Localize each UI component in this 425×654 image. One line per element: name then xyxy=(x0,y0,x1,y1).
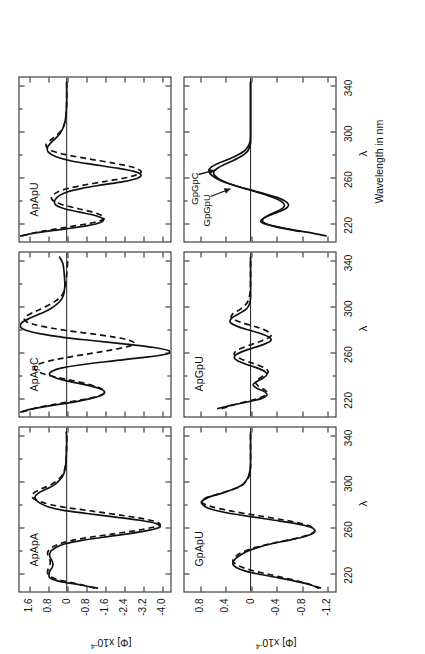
curves-ApGpU xyxy=(184,252,335,416)
xtick-GpGpCU-220 xyxy=(330,223,335,224)
ytick-GpApU--0.4 xyxy=(276,586,277,591)
xticklabel-GpApU-340: 340 xyxy=(342,429,353,446)
ytick-GpApU-0.4 xyxy=(225,586,226,591)
ytick-right-ApApC-0 xyxy=(67,252,68,257)
xtick-top-ApGpU-300 xyxy=(184,306,189,307)
plot-area-ApApC xyxy=(19,252,170,416)
xtick-minor-top-ApGpU-240 xyxy=(184,375,187,376)
xtick-ApApU-220 xyxy=(165,223,170,224)
plot-area-ApGpU xyxy=(184,252,335,416)
yticklabel-ApApA-0: 1.6 xyxy=(22,598,33,630)
ytick-ApApU-1.6 xyxy=(29,236,30,241)
xtick-top-ApApC-340 xyxy=(19,260,24,261)
ytick-right-ApGpU--0.8 xyxy=(302,252,303,257)
xtick-ApApC-340 xyxy=(165,260,170,261)
xtick-top-GpApU-220 xyxy=(184,573,189,574)
curves-ApApU xyxy=(19,77,170,241)
xtick-minor-top-GpApU-240 xyxy=(184,550,187,551)
ytick-right-ApApU--4 xyxy=(162,77,163,82)
xtick-minor-GpApU-240 xyxy=(332,550,335,551)
ytick-ApGpU-0.4 xyxy=(225,411,226,416)
xtick-top-GpApU-300 xyxy=(184,481,189,482)
ytick-ApApC--2.4 xyxy=(124,411,125,416)
ytick-right-ApApA--4 xyxy=(162,427,163,432)
xtick-top-ApApU-260 xyxy=(19,177,24,178)
xtick-top-ApApC-260 xyxy=(19,352,24,353)
xtick-GpGpCU-340 xyxy=(330,85,335,86)
xtick-ApApC-260 xyxy=(165,352,170,353)
ytick-GpApU--0.8 xyxy=(302,586,303,591)
xtick-top-ApApA-220 xyxy=(19,573,24,574)
ytick-ApApA--4 xyxy=(162,586,163,591)
ytick-right-ApApU-0 xyxy=(67,77,68,82)
ytick-right-GpGpCU-0 xyxy=(251,77,252,82)
xtick-ApApU-260 xyxy=(165,177,170,178)
ytick-ApApA--2.4 xyxy=(124,586,125,591)
xtick-minor-top-GpGpCU-280 xyxy=(184,154,187,155)
xticklabel-GpGpCU-220: 220 xyxy=(342,216,353,233)
ytick-right-ApGpU--1.2 xyxy=(327,252,328,257)
curve-ApGpU-calculated xyxy=(221,257,270,409)
ytick-right-ApGpU-0.4 xyxy=(225,252,226,257)
xticklabel-ApGpU-260: 260 xyxy=(342,346,353,363)
xtick-top-GpApU-260 xyxy=(184,527,189,528)
xticklabel-GpApU-220: 220 xyxy=(342,566,353,583)
xtick-ApGpU-260 xyxy=(330,352,335,353)
panel-ApApU xyxy=(18,76,171,242)
ytick-right-GpApU--0.8 xyxy=(302,427,303,432)
panel-ApGpU xyxy=(183,251,336,417)
xtick-minor-ApApU-320 xyxy=(167,108,170,109)
xtick-minor-top-ApApC-320 xyxy=(19,283,22,284)
ytick-ApApU--0.8 xyxy=(86,236,87,241)
ytick-right-ApApA--0.8 xyxy=(86,427,87,432)
curve-ApGpU-experimental xyxy=(217,257,270,409)
xtick-minor-ApApA-240 xyxy=(167,550,170,551)
panel-title-ApApC: ApApC xyxy=(27,357,39,391)
ytick-right-ApApU-0.8 xyxy=(48,77,49,82)
panel-ApApC xyxy=(18,251,171,417)
xticklabel-GpGpCU-300: 300 xyxy=(342,125,353,142)
xtick-top-ApApU-300 xyxy=(19,131,24,132)
xtick-top-GpGpCU-300 xyxy=(184,131,189,132)
figure-canvas: ApApA1.60.80-0.8-1.6-2.4-3.2-4.0ApApCApA… xyxy=(0,0,425,654)
xtick-minor-top-ApApU-240 xyxy=(19,200,22,201)
xtick-ApApU-340 xyxy=(165,85,170,86)
xtick-minor-top-ApApU-280 xyxy=(19,154,22,155)
ytick-ApApC-0.8 xyxy=(48,411,49,416)
xaxis-lambda-ApGpU: λ xyxy=(356,325,368,331)
yticklabel-ApApA-4: -1.6 xyxy=(99,598,110,630)
xticklabel-GpGpCU-260: 260 xyxy=(342,171,353,188)
xtick-minor-ApGpU-320 xyxy=(332,283,335,284)
xtick-GpApU-300 xyxy=(330,481,335,482)
panel-title-ApGpU: ApGpU xyxy=(192,356,204,391)
xtick-top-ApGpU-340 xyxy=(184,260,189,261)
yticklabel-GpApU-2: 0 xyxy=(244,598,255,630)
annotation-arrow-GpGpU xyxy=(203,181,237,203)
ytick-right-ApApC--0.8 xyxy=(86,252,87,257)
xticklabel-ApGpU-300: 300 xyxy=(342,300,353,317)
plot-area-GpApU xyxy=(184,427,335,591)
xtick-minor-top-ApApA-320 xyxy=(19,458,22,459)
ytick-ApApU--2.4 xyxy=(124,236,125,241)
xtick-top-ApApU-340 xyxy=(19,85,24,86)
xtick-minor-ApApU-240 xyxy=(167,200,170,201)
panel-title-GpApU: GpApU xyxy=(192,531,204,566)
xtick-top-ApApA-260 xyxy=(19,527,24,528)
xtick-minor-top-ApApU-320 xyxy=(19,108,22,109)
annotation-arrow-GpGpC xyxy=(191,163,221,181)
ytick-GpGpCU-0.8 xyxy=(200,236,201,241)
ytick-right-ApApC-0.8 xyxy=(48,252,49,257)
yticklabel-ApApA-3: -0.8 xyxy=(79,598,90,630)
yticklabel-GpApU-4: -0.8 xyxy=(295,598,306,630)
ytick-right-ApGpU--0.4 xyxy=(276,252,277,257)
plot-area-ApApA xyxy=(19,427,170,591)
ytick-ApApC--0.8 xyxy=(86,411,87,416)
yaxis-name-row1: [Φ] x10-4 xyxy=(255,637,296,651)
ytick-right-GpGpCU--0.8 xyxy=(302,77,303,82)
ytick-ApApA--1.6 xyxy=(105,586,106,591)
xtick-top-ApGpU-220 xyxy=(184,398,189,399)
xtick-minor-ApApA-280 xyxy=(167,504,170,505)
xtick-minor-ApApC-280 xyxy=(167,329,170,330)
xtick-minor-top-ApApA-280 xyxy=(19,504,22,505)
ytick-right-GpApU--0.4 xyxy=(276,427,277,432)
